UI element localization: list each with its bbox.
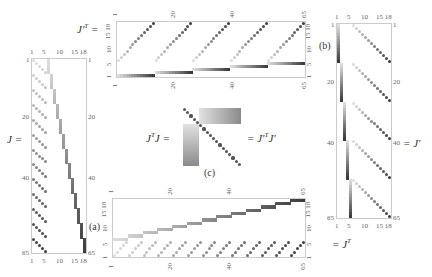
- label-Jp: = J′: [403, 137, 420, 149]
- tick-top-40: 40: [226, 188, 233, 195]
- tick-right-65: 65: [88, 250, 95, 257]
- tick-right-5: 5: [306, 63, 313, 67]
- tick-bottom-15: 15 18: [71, 258, 87, 265]
- label-JT: = JT: [332, 237, 351, 250]
- matrix-Jp: [336, 23, 392, 219]
- tag-a: (a): [89, 221, 100, 232]
- tick-left-10: 10: [106, 46, 113, 53]
- tick-bottom-1: 1: [30, 258, 34, 265]
- tick-left-15: 15 18: [105, 24, 112, 40]
- tick-bottom-1: 1: [335, 223, 339, 230]
- tick-left-5: 5: [102, 243, 109, 247]
- matrix-JTJ: [183, 108, 241, 166]
- tick-right-10: 10: [306, 46, 313, 53]
- tick-right-10: 10: [306, 225, 313, 232]
- label-JpTJp: = J′TJ′: [247, 131, 276, 144]
- tick-left-1: 1: [106, 75, 113, 79]
- tag-c: (c): [204, 167, 215, 178]
- tick-left-40: 40: [327, 140, 334, 147]
- tick-bottom-10: 10: [361, 223, 368, 230]
- tick-left-65: 65: [22, 250, 29, 257]
- tick-top-65: 65: [301, 11, 308, 18]
- tick-left-65: 65: [327, 215, 334, 222]
- tick-top-5: 5: [347, 14, 351, 21]
- label-JTJ: JTJ =: [146, 131, 170, 144]
- tick-bottom-20: 20: [167, 263, 174, 270]
- tick-left-5: 5: [106, 63, 113, 67]
- tick-bottom-65: 65: [300, 263, 307, 270]
- tick-top-1: 1: [30, 49, 34, 56]
- tick-top-20: 20: [170, 11, 177, 18]
- tick-top-1: 1: [108, 190, 115, 194]
- tick-bottom-5: 5: [42, 258, 46, 265]
- tick-left-40: 40: [22, 175, 29, 182]
- label-J: J =: [7, 133, 22, 145]
- tick-bottom-15: 15 18: [376, 223, 392, 230]
- tick-left-20: 20: [22, 114, 29, 121]
- tick-right-15: 15 18: [305, 24, 312, 40]
- tag-b: (b): [319, 40, 331, 51]
- tick-top-10: 10: [361, 14, 368, 21]
- tick-right-15: 15 18: [305, 202, 312, 218]
- tick-top-15: 15 18: [376, 14, 392, 21]
- tick-right-40: 40: [88, 175, 95, 182]
- tick-bottom-1: 1: [112, 84, 119, 88]
- tick-right-40: 40: [393, 140, 400, 147]
- tick-left-10: 10: [102, 225, 109, 232]
- tick-left-20: 20: [327, 79, 334, 86]
- matrix-JT: [112, 198, 306, 258]
- tick-right-20: 20: [88, 114, 95, 121]
- tick-right-20: 20: [393, 79, 400, 86]
- tick-right-65: 65: [393, 215, 400, 222]
- tick-bottom-20: 20: [170, 82, 177, 89]
- tick-top-65: 65: [300, 188, 307, 195]
- tick-bottom-65: 65: [301, 82, 308, 89]
- tick-bottom-40: 40: [229, 82, 236, 89]
- tick-right-1: 1: [393, 22, 397, 29]
- tick-bottom-40: 40: [226, 263, 233, 270]
- tick-left-1: 1: [102, 256, 109, 260]
- tick-bottom-5: 5: [347, 223, 351, 230]
- matrix-JpT: [116, 21, 306, 78]
- tick-left-1: 1: [331, 22, 335, 29]
- tick-bottom-10: 10: [56, 258, 63, 265]
- tick-top-20: 20: [167, 188, 174, 195]
- tick-left-1: 1: [26, 57, 30, 64]
- tick-right-1: 1: [306, 75, 313, 79]
- tick-bottom-1: 1: [108, 265, 115, 269]
- tick-left-15: 15 18: [101, 202, 108, 218]
- tick-right-5: 5: [306, 243, 313, 247]
- tick-top-1: 1: [335, 14, 339, 21]
- tick-top-10: 10: [56, 49, 63, 56]
- tick-right-1: 1: [306, 256, 313, 260]
- tick-top-1: 1: [112, 13, 119, 17]
- tick-top-5: 5: [42, 49, 46, 56]
- tick-top-40: 40: [229, 11, 236, 18]
- label-JpT: J′T =: [77, 22, 98, 35]
